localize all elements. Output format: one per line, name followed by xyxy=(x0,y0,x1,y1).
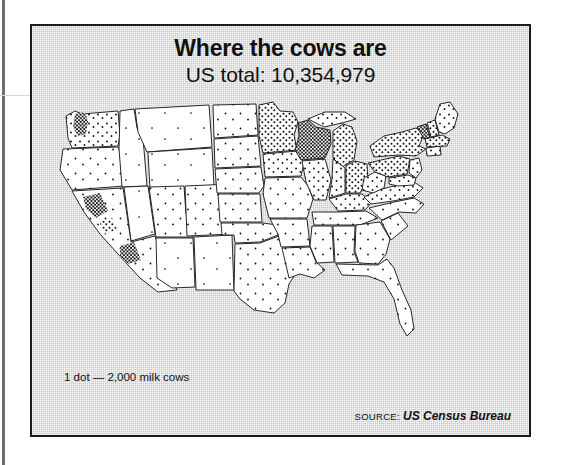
state-north-dakota xyxy=(213,104,258,138)
state-south-dakota xyxy=(214,136,261,168)
state-new-jersey xyxy=(409,158,422,178)
state-missouri xyxy=(263,177,313,218)
state-oregon xyxy=(60,147,124,190)
state-florida xyxy=(336,259,414,336)
state-michigan-lower xyxy=(333,124,357,167)
state-kansas xyxy=(218,194,262,222)
state-connecticut-rhode-island xyxy=(426,146,441,156)
legend-note: 1 dot — 2,000 milk cows xyxy=(64,371,189,383)
state-michigan-upper xyxy=(308,112,356,127)
state-wyoming xyxy=(148,148,214,190)
figure-subtitle: US total: 10,354,979 xyxy=(32,62,529,88)
state-new-mexico xyxy=(194,235,234,290)
state-alabama xyxy=(333,226,358,263)
source-name: US Census Bureau xyxy=(403,409,511,423)
us-map-svg xyxy=(42,94,521,384)
page-hairline xyxy=(0,95,31,96)
state-minnesota xyxy=(259,102,298,153)
state-maine xyxy=(435,102,458,134)
source-label: SOURCE: xyxy=(355,411,400,422)
page-title: Where the cows are xyxy=(32,34,529,62)
page-left-rule xyxy=(2,0,5,465)
state-nebraska xyxy=(215,167,264,193)
state-washington xyxy=(66,111,120,148)
state-tennessee xyxy=(312,211,378,225)
source-line: SOURCE: US Census Bureau xyxy=(355,409,511,423)
us-dot-density-map xyxy=(42,94,521,384)
state-new-york xyxy=(370,128,426,157)
figure-frame: Where the cows are US total: 10,354,979 xyxy=(30,24,531,437)
state-montana xyxy=(135,105,212,152)
figure-headings: Where the cows are US total: 10,354,979 xyxy=(32,34,529,88)
state-arizona xyxy=(156,238,195,288)
